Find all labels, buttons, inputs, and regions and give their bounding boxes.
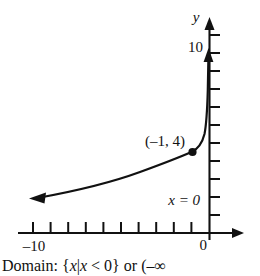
caption-prefix: Domain: { [2, 257, 70, 274]
x-axis-arrow-icon [232, 228, 244, 238]
caption-relation: < 0} or (–∞ [87, 257, 166, 274]
y-tick-label-10: 10 [188, 39, 203, 55]
y-axis-arrow-icon [205, 17, 215, 30]
coordinate-plane-svg: y 10 0 –10 (–1, 4) x = 0 [0, 0, 260, 276]
x-axis-ticks [33, 222, 191, 233]
y-axis-label: y [191, 9, 200, 25]
curve-left-arrow-icon [29, 193, 46, 204]
point-annotation-label: (–1, 4) [145, 133, 185, 150]
asymptote-label: x = 0 [167, 192, 200, 208]
graph-figure: y 10 0 –10 (–1, 4) x = 0 [0, 0, 260, 276]
domain-caption: Domain: {x|x < 0} or (–∞ [2, 256, 260, 275]
plotted-point-marker [188, 148, 196, 156]
caption-var-1: x [70, 257, 77, 274]
x-tick-label-neg10: –10 [22, 238, 46, 254]
x-tick-label-0: 0 [200, 237, 208, 253]
curve-up-arrow-icon [204, 48, 214, 62]
function-curve [40, 58, 208, 198]
